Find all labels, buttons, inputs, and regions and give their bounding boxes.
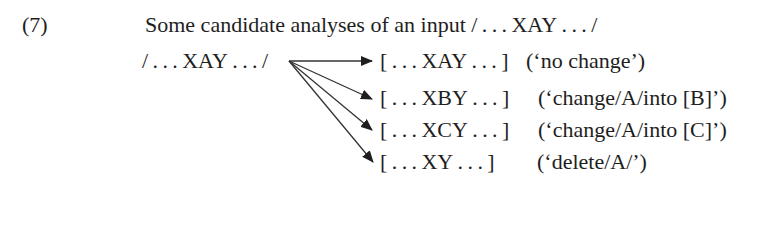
candidate-form-1: [ . . . XAY . . . ] <box>380 50 509 72</box>
candidate-form-3: [ . . . XCY . . . ] <box>380 119 509 141</box>
arrow-delete <box>289 61 373 162</box>
candidate-form-4: [ . . . XY . . . ] <box>380 151 495 173</box>
candidate-gloss-4: (‘delete/A/’) <box>537 151 647 173</box>
candidate-gloss-1: (‘no change’) <box>526 50 645 72</box>
candidate-gloss-2: (‘change/A/into [B]’) <box>538 87 727 109</box>
candidate-gloss-3: (‘change/A/into [C]’) <box>538 119 727 141</box>
candidate-form-2: [ . . . XBY . . . ] <box>380 87 509 109</box>
arrow-change-b <box>289 61 372 99</box>
arrow-change-c <box>289 61 372 130</box>
